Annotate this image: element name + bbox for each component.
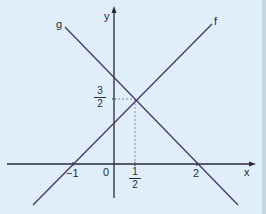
label-origin: 0 [103, 167, 109, 178]
y-axis-arrow-icon [112, 6, 117, 13]
label-one-half: 1 2 [129, 167, 141, 190]
three-halves-denominator: 2 [97, 98, 103, 109]
label-minus-one: −1 [66, 168, 79, 179]
chart-panel: g f y x 0 −1 2 1 2 3 2 [0, 0, 266, 214]
three-halves-numerator: 3 [97, 85, 103, 96]
one-half-numerator: 1 [132, 166, 138, 177]
x-axis-arrow-icon [249, 162, 256, 167]
label-two: 2 [193, 168, 199, 179]
right-border [262, 0, 266, 214]
label-f: f [214, 16, 217, 27]
label-three-halves: 3 2 [94, 86, 106, 109]
label-g: g [56, 19, 62, 30]
label-x-axis: x [244, 167, 250, 178]
line-g [65, 27, 238, 205]
one-half-denominator: 2 [132, 179, 138, 190]
line-f [33, 24, 212, 205]
label-y-axis: y [104, 11, 110, 22]
